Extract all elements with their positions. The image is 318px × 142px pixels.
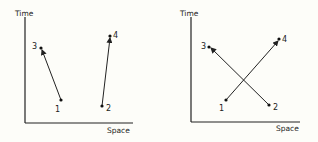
left-point-4 bbox=[108, 34, 111, 37]
right-point-3-label: 3 bbox=[201, 42, 206, 51]
left-arrow-1-to-3 bbox=[42, 50, 61, 100]
spacetime-diagrams: Time Space 1 2 3 4 Time Space 1 2 3 4 bbox=[0, 0, 318, 142]
right-panel: Time Space 1 2 3 4 bbox=[179, 9, 300, 133]
left-time-axis-label: Time bbox=[14, 9, 34, 18]
left-arrow-2-to-4 bbox=[102, 38, 110, 106]
right-space-axis-label: Space bbox=[276, 124, 299, 133]
right-arrow-2-to-3 bbox=[211, 48, 269, 105]
left-point-4-label: 4 bbox=[113, 31, 118, 40]
left-panel: Time Space 1 2 3 4 bbox=[14, 9, 133, 135]
left-point-3 bbox=[39, 46, 42, 49]
left-point-1-label: 1 bbox=[55, 105, 60, 114]
left-point-2-label: 2 bbox=[106, 104, 111, 113]
right-point-1-label: 1 bbox=[219, 104, 224, 113]
left-point-2 bbox=[100, 104, 103, 107]
right-point-4-label: 4 bbox=[282, 35, 287, 44]
left-point-1 bbox=[59, 98, 62, 101]
right-point-3 bbox=[207, 45, 210, 48]
right-time-axis-label: Time bbox=[179, 9, 199, 18]
left-point-3-label: 3 bbox=[32, 42, 37, 51]
right-point-2-label: 2 bbox=[273, 103, 278, 112]
right-point-1 bbox=[224, 98, 227, 101]
right-point-2 bbox=[267, 103, 270, 106]
right-point-4 bbox=[277, 37, 280, 40]
left-space-axis-label: Space bbox=[107, 126, 130, 135]
